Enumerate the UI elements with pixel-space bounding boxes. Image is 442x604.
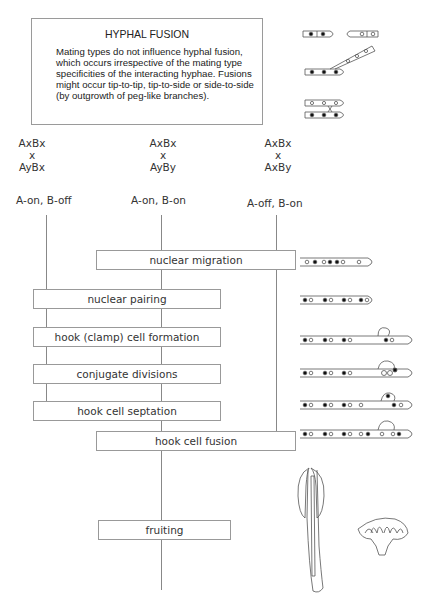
mushroom-cap-gills-icon — [355, 515, 411, 560]
cross-1: AxBx x AyBx — [2, 137, 62, 173]
step-hook-cell-fusion: hook cell fusion — [96, 431, 296, 451]
cross-3-parent1: AxBx — [248, 137, 308, 149]
hypha-with-nuclei-icon — [298, 256, 442, 466]
hyphal-fusion-diagrams-icon — [300, 24, 440, 124]
cross-1-parent1: AxBx — [2, 137, 62, 149]
mushroom-section-icon — [295, 466, 335, 596]
infobox-title: HYPHAL FUSION — [32, 28, 262, 40]
cross-2-parent1: AxBx — [133, 137, 193, 149]
hyphal-fusion-infobox: HYPHAL FUSION Mating types do not influe… — [31, 18, 263, 125]
cross-3-sep: x — [248, 149, 308, 161]
step-hook-cell-formation: hook (clamp) cell formation — [33, 327, 221, 347]
cross-2-state: A-on, B-on — [131, 194, 186, 206]
cross-2: AxBx x AyBy — [133, 137, 193, 173]
step-nuclear-migration: nuclear migration — [96, 250, 296, 270]
cross-1-sep: x — [2, 149, 62, 161]
step-fruiting: fruiting — [98, 520, 231, 540]
cross-3-parent2: AxBy — [248, 161, 308, 173]
cross-1-parent2: AyBx — [2, 161, 62, 173]
step-conjugate-divisions: conjugate divisions — [33, 364, 221, 384]
step-hook-cell-septation: hook cell septation — [33, 401, 221, 421]
cross-2-sep: x — [133, 149, 193, 161]
pathway-line-right — [276, 215, 277, 433]
step-nuclear-pairing: nuclear pairing — [33, 289, 221, 309]
infobox-body: Mating types do not influence hyphal fus… — [56, 46, 266, 101]
cross-3-state: A-off, B-on — [247, 197, 303, 209]
cross-1-state: A-on, B-off — [16, 194, 72, 206]
cross-2-parent2: AyBy — [133, 161, 193, 173]
cross-3: AxBx x AxBy — [248, 137, 308, 173]
